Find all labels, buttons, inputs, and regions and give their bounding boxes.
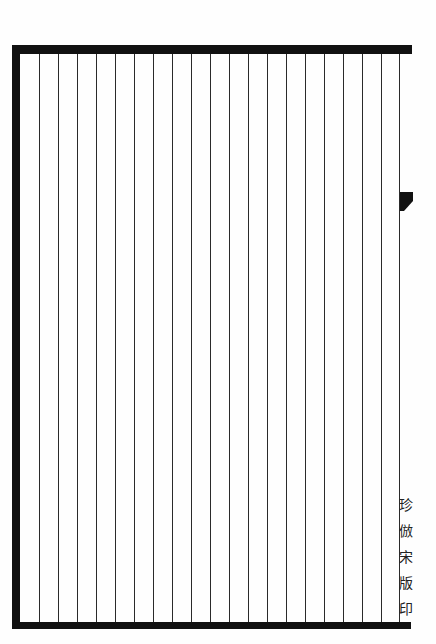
column-rule (134, 54, 135, 622)
column-rule (343, 54, 344, 622)
frame-bottom-border (12, 622, 411, 629)
ruled-page: 珍 倣 宋 版 印 (0, 0, 436, 644)
center-column-imprint: 珍 倣 宋 版 印 (399, 482, 413, 622)
imprint-char: 倣 (399, 518, 413, 544)
column-rule (324, 54, 325, 622)
imprint-char: 珍 (399, 492, 413, 518)
column-rule (248, 54, 249, 622)
column-rule (191, 54, 192, 622)
column-rule (153, 54, 154, 622)
column-rule (58, 54, 59, 622)
column-rule (77, 54, 78, 622)
frame-top-border (12, 45, 412, 54)
column-rule (210, 54, 211, 622)
column-rule (39, 54, 40, 622)
column-rule (172, 54, 173, 622)
fishtail-mark-icon (400, 192, 413, 211)
column-rule (305, 54, 306, 622)
column-rule (286, 54, 287, 622)
imprint-char: 版 (399, 570, 413, 596)
column-rule (96, 54, 97, 622)
frame-left-border (12, 45, 20, 629)
column-rule (267, 54, 268, 622)
imprint-char: 宋 (399, 544, 413, 570)
column-rule (115, 54, 116, 622)
column-rule (229, 54, 230, 622)
column-rule (381, 54, 382, 622)
column-rule (362, 54, 363, 622)
imprint-char: 印 (399, 596, 413, 622)
